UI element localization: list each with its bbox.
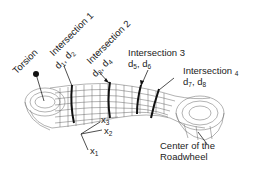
intersection-3-vars: d5, d6	[128, 59, 151, 72]
center-label-line1: Center of the	[160, 141, 215, 151]
center-label-line2: Roadwheel	[160, 152, 208, 162]
intersection-4-vars: d7, d8	[183, 77, 206, 90]
axis-x2-label: x2	[104, 126, 112, 139]
axis-x1-label: x1	[90, 146, 98, 159]
torsion-point-icon	[33, 71, 39, 77]
intersection-3-title: Intersection 3	[128, 48, 185, 58]
diagram-canvas: Torsion Intersection 1 d1, d2 Intersecti…	[0, 0, 258, 171]
